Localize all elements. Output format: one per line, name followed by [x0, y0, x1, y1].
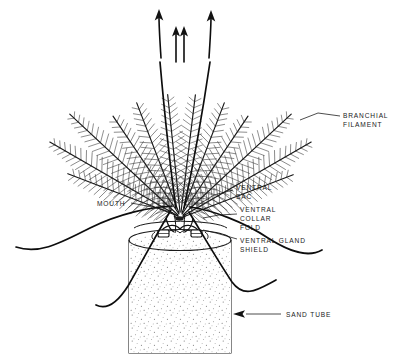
label-sand-tube: SAND TUBE [286, 311, 331, 318]
label-ventral-sac-line1: VENTRAL [236, 184, 272, 191]
label-branchial-filament-line2: FILAMENT [343, 121, 382, 128]
label-ventral-collar-fold-line2: COLLAR [240, 215, 272, 222]
figure-root: BRANCHIAL FILAMENT MOUTH VENTRAL SAC VEN… [0, 0, 397, 361]
label-ventral-collar-fold-line3: FOLD [240, 224, 261, 231]
mouth-opening [175, 216, 183, 220]
label-ventral-gland-shield-line1: VENTRAL GLAND [240, 237, 306, 244]
label-ventral-collar-fold-line1: VENTRAL [240, 206, 276, 213]
label-branchial-filament-line1: BRANCHIAL [343, 112, 388, 119]
tube-worm-diagram: BRANCHIAL FILAMENT MOUTH VENTRAL SAC VEN… [0, 0, 397, 361]
label-mouth: MOUTH [97, 200, 125, 207]
sand-tube-group [126, 221, 236, 356]
label-ventral-sac-line2: SAC [236, 193, 252, 200]
label-ventral-gland-shield-line2: SHIELD [240, 246, 269, 253]
